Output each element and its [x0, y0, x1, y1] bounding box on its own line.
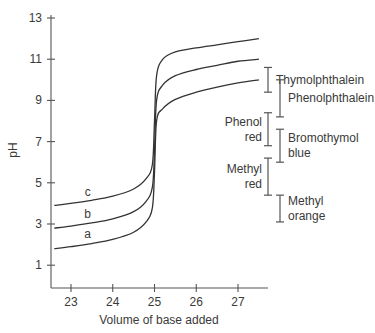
indicator-methyl-red: Methylred: [227, 158, 272, 195]
indicator-label: blue: [288, 146, 311, 160]
curve-label-a: a: [84, 227, 91, 241]
y-tick-label: 5: [35, 176, 42, 190]
y-tick-label: 9: [35, 93, 42, 107]
indicator-label: Bromothymol: [288, 131, 359, 145]
indicator-methyl-orange: Methylorange: [276, 194, 326, 223]
indicator-label: Phenolphthalein: [288, 91, 374, 105]
indicator-label: Methyl: [288, 194, 323, 208]
x-tick-label: 24: [106, 295, 120, 309]
x-tick-label: 27: [231, 295, 245, 309]
y-tick-label: 7: [35, 135, 42, 149]
curve-label-c: c: [85, 185, 91, 199]
indicator-label: red: [245, 177, 262, 191]
y-tick-label: 3: [35, 217, 42, 231]
titration-chart: 135791113 2324252627 pH Volume of base a…: [0, 0, 375, 333]
curve-label-b: b: [84, 207, 91, 221]
indicator-label: Thymolphthalein: [276, 73, 364, 87]
x-axis-label: Volume of base added: [99, 313, 218, 327]
x-tick-label: 26: [190, 295, 204, 309]
x-tick-label: 23: [64, 295, 78, 309]
indicator-label: orange: [288, 209, 326, 223]
y-axis-label: pH: [6, 142, 20, 157]
indicator-ranges: ThymolphthaleinPhenolphthaleinPhenolredB…: [225, 67, 374, 223]
indicator-phenol-red: Phenolred: [225, 113, 272, 146]
curve-labels: abc: [84, 185, 91, 241]
y-tick-label: 11: [30, 52, 43, 66]
indicator-label: red: [245, 130, 262, 144]
indicator-bromothymol-blue: Bromothymolblue: [276, 129, 359, 162]
y-tick-label: 1: [35, 258, 42, 272]
y-tick-label: 13: [29, 11, 43, 25]
indicator-label: Methyl: [227, 162, 262, 176]
x-tick-label: 25: [148, 295, 162, 309]
indicator-label: Phenol: [225, 115, 262, 129]
